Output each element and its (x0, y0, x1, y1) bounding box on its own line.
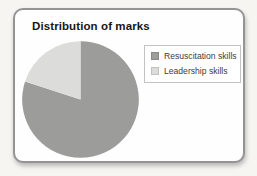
legend: Resuscitation skills Leadership skills (144, 45, 241, 83)
legend-label: Resuscitation skills (164, 52, 237, 61)
chart-title: Distribution of marks (32, 20, 150, 32)
legend-swatch-leadership (151, 67, 159, 75)
legend-item-leadership: Leadership skills (151, 67, 234, 76)
figure: Distribution of marks Resuscitation skil… (0, 0, 257, 176)
pie-chart-container (21, 40, 140, 159)
pie-chart (21, 40, 140, 159)
legend-swatch-resuscitation (151, 52, 159, 60)
legend-label: Leadership skills (164, 67, 228, 76)
chart-card: Distribution of marks Resuscitation skil… (13, 8, 245, 163)
legend-item-resuscitation: Resuscitation skills (151, 52, 234, 61)
